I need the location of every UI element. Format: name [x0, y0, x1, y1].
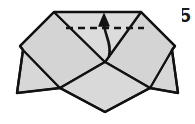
origami-figure: 5: [0, 0, 195, 124]
step-number-text: 5: [182, 4, 195, 26]
step-number-label: 5: [182, 4, 195, 26]
origami-diagram-svg: [0, 0, 195, 124]
